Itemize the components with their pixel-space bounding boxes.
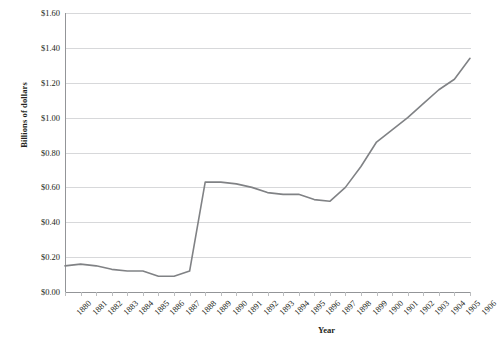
x-axis-tick <box>127 292 128 296</box>
x-axis-tick <box>283 292 284 296</box>
x-axis-tick-label: 1889 <box>214 298 233 317</box>
x-axis-tick <box>345 292 346 296</box>
x-axis-tick <box>314 292 315 296</box>
x-axis-tick <box>205 292 206 296</box>
y-axis-tick-label: $0.60 <box>41 182 60 192</box>
x-axis-tick <box>174 292 175 296</box>
x-axis-tick <box>236 292 237 296</box>
x-axis-tick <box>299 292 300 296</box>
x-axis-tick <box>454 292 455 296</box>
x-axis-title-text: Year <box>318 325 335 335</box>
x-axis-tick <box>268 292 269 296</box>
y-axis-tick-label: $1.40 <box>41 43 60 53</box>
x-axis-tick <box>221 292 222 296</box>
x-axis-tick <box>81 292 82 296</box>
x-axis-tick <box>377 292 378 296</box>
x-axis-title: Year <box>0 325 485 335</box>
plot-area <box>65 13 471 293</box>
gridline <box>66 153 471 154</box>
x-axis-tick <box>408 292 409 296</box>
gridline <box>66 257 471 258</box>
x-axis-tick <box>439 292 440 296</box>
x-axis-tick-label: 1901 <box>401 298 420 317</box>
gridline <box>66 48 471 49</box>
gridline <box>66 118 471 119</box>
x-axis-tick <box>112 292 113 296</box>
x-axis-tick <box>190 292 191 296</box>
y-axis-tick-label: $0.20 <box>41 252 60 262</box>
gridline <box>66 83 471 84</box>
x-axis-tick <box>158 292 159 296</box>
x-axis-tick-label: 1882 <box>105 298 124 317</box>
x-axis-tick <box>423 292 424 296</box>
gridline <box>66 187 471 188</box>
x-axis-tick <box>143 292 144 296</box>
x-axis-tick-label: 1892 <box>261 298 280 317</box>
y-axis-tick-label: $0.00 <box>41 287 60 297</box>
y-axis-tick-label: $1.60 <box>41 8 60 18</box>
x-axis-tick <box>65 292 66 296</box>
y-axis-tick-labels: $0.00$0.20$0.40$0.60$0.80$1.00$1.20$1.40… <box>0 0 62 343</box>
x-axis-tick-label: 1903 <box>432 298 451 317</box>
y-axis-tick-label: $0.80 <box>41 148 60 158</box>
x-axis-tick-label: 1894 <box>292 298 311 317</box>
x-axis-tick <box>361 292 362 296</box>
y-axis-tick-label: $0.40 <box>41 217 60 227</box>
gridline <box>66 222 471 223</box>
x-axis-tick <box>392 292 393 296</box>
x-axis-tick-label: 1899 <box>370 298 389 317</box>
x-axis-tick <box>96 292 97 296</box>
x-axis-tick-label: 1906 <box>479 298 498 317</box>
y-axis-tick-label: $1.20 <box>41 78 60 88</box>
x-axis-tick <box>252 292 253 296</box>
x-axis-tick-label: 1896 <box>323 298 342 317</box>
x-axis-tick-label: 1880 <box>74 298 93 317</box>
x-axis-tick <box>470 292 471 296</box>
gridline <box>66 13 471 14</box>
x-axis-tick <box>330 292 331 296</box>
y-axis-tick-label: $1.00 <box>41 113 60 123</box>
x-axis-tick-label: 1887 <box>183 298 202 317</box>
